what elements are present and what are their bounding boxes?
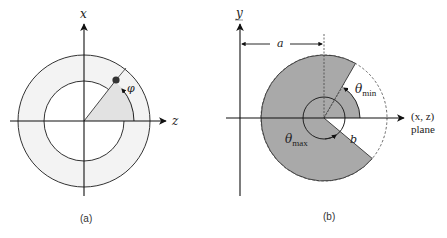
point-marker [112,76,119,83]
phi-label: φ [127,82,135,95]
theta-min-label: θmin [355,82,377,98]
radius-b-label: b [350,133,357,146]
z-axis-label: z [171,114,179,128]
caption-a: (a) [80,213,92,224]
plane-label-line2: plane [411,123,435,135]
figure-canvas: x z φ (a) y a b θmi [0,0,447,238]
theta-min-subscript: min [362,88,377,98]
panel-a: x z φ (a) [10,7,179,224]
x-axis-label: x [80,7,87,21]
panel-b: y a b θmin θmax (x, z) plane (b) [226,6,435,222]
plane-label-line1: (x, z) [411,110,435,123]
caption-b: (b) [323,211,335,222]
theta-max-subscript: max [292,138,308,148]
y-axis-label: y [235,6,243,20]
distance-a-label: a [277,37,284,50]
